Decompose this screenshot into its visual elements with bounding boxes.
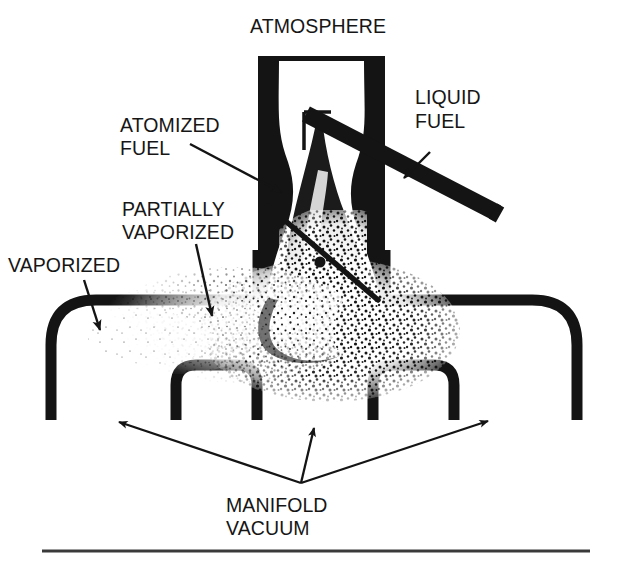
label-liquid-fuel-line2: FUEL <box>415 110 465 132</box>
label-partially-vaporized-line1: PARTIALLY <box>122 198 225 220</box>
stipple-cloud-sparse <box>88 312 212 364</box>
label-liquid-fuel-line1: LIQUID <box>415 86 481 108</box>
label-manifold-vacuum-line1: MANIFOLD <box>226 494 328 516</box>
figure-root: ATMOSPHERE LIQUID FUEL ATOMIZED FUEL PAR… <box>0 0 628 568</box>
throat-top-rim <box>258 56 385 61</box>
label-atmosphere: ATMOSPHERE <box>250 15 386 37</box>
label-vaporized: VAPORIZED <box>8 254 120 276</box>
fuel-tube-end-cap <box>493 211 500 215</box>
label-partially-vaporized-line2: VAPORIZED <box>122 221 234 243</box>
carburetor-diagram: ATMOSPHERE LIQUID FUEL ATOMIZED FUEL PAR… <box>0 0 628 568</box>
label-atomized-fuel-line2: FUEL <box>120 137 170 159</box>
stipple-cloud <box>82 256 467 406</box>
label-atomized-fuel-line1: ATOMIZED <box>120 114 220 136</box>
fuel-stream-node <box>315 257 326 268</box>
label-manifold-vacuum-line2: VACUUM <box>226 517 310 539</box>
